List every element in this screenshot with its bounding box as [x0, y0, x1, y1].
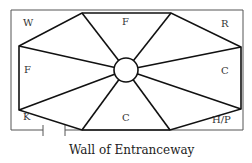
caption: Wall of Entranceway [69, 143, 194, 157]
label-bottom-left: K [23, 112, 30, 122]
center-circle [114, 58, 138, 82]
label-top-left: W [23, 18, 33, 28]
label-bottom-right: H/P [212, 115, 231, 125]
label-right: C [221, 66, 229, 76]
label-left: F [24, 65, 31, 75]
label-bottom: C [122, 113, 130, 123]
label-top-right: R [221, 19, 229, 29]
label-top: F [122, 17, 129, 27]
